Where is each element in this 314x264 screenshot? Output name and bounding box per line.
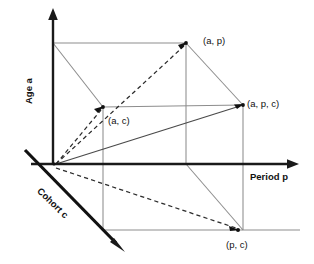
ray-origin-to-ac [56, 110, 101, 164]
cohort-axis-arrowhead [110, 238, 125, 252]
box-edge-top-back [103, 105, 243, 107]
age-axis-label-text: Age a [23, 78, 34, 104]
box-edge-top-right-depth [186, 43, 243, 105]
box-edge-top-left-depth [53, 43, 103, 107]
vertex-label-ac-text: (a, c) [108, 115, 130, 126]
ray-origin-to-pc [56, 168, 236, 228]
period-axis-label: Period p [250, 172, 288, 182]
ray-origin-to-ap [56, 46, 184, 164]
age-axis-arrowhead [48, 8, 58, 20]
vertex-label-ac: (a, c) [108, 116, 130, 126]
diagram-canvas [0, 0, 314, 264]
apc-diagram: Age a Cohort c Period p (a, p) (a, p, c)… [0, 0, 314, 264]
vertex-dot-apc [241, 103, 245, 107]
vertex-dot-ac [101, 105, 105, 109]
period-axis-label-text: Period p [250, 171, 288, 182]
vertex-label-ap-text: (a, p) [203, 35, 225, 46]
period-axis-arrowhead [287, 159, 299, 169]
vertex-label-ap: (a, p) [203, 36, 225, 46]
vertex-label-pc: (p, c) [226, 240, 248, 250]
age-axis-label: Age a [24, 78, 34, 104]
vertex-label-apc: (a, p, c) [247, 99, 279, 109]
vertex-dot-ap [184, 41, 188, 45]
box-edge-bottom-right-depth [186, 164, 243, 230]
vertex-dot-pc [236, 228, 240, 232]
vertex-label-pc-text: (p, c) [226, 239, 248, 250]
vertex-label-apc-text: (a, p, c) [247, 98, 279, 109]
origin-marker [52, 162, 55, 165]
ray-origin-to-apc [56, 106, 240, 164]
